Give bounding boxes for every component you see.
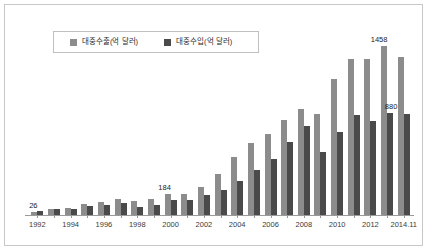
x-tick-slot: 1998: [129, 219, 146, 233]
x-tick-mark: [87, 215, 88, 218]
x-tick-mark: [354, 215, 355, 218]
bar-import: [171, 200, 177, 215]
bar-group: [129, 29, 146, 215]
bar-import: [87, 206, 93, 215]
x-tick-slot: [46, 219, 63, 233]
x-tick-slot: [246, 219, 263, 233]
legend-swatch-export: [70, 39, 77, 46]
bar-import: [354, 115, 360, 215]
bar-group: [395, 29, 412, 215]
bar-group: [312, 29, 329, 215]
x-tick-mark: [137, 215, 138, 218]
x-tick-label: 2010: [329, 221, 346, 229]
bar-import: [271, 159, 277, 215]
x-axis-labels: 1992199419961998200020022004200620082010…: [29, 219, 412, 233]
bar-group: [96, 29, 113, 215]
legend-label-export: 대중수출(억 달러): [82, 38, 138, 46]
x-tick-mark: [287, 215, 288, 218]
bar-import: [387, 113, 393, 215]
legend-entry-export: 대중수출(억 달러): [70, 38, 138, 46]
x-tick-slot: [279, 219, 296, 233]
x-tick-mark: [404, 215, 405, 218]
x-tick-mark: [337, 215, 338, 218]
x-tick-label: 2000: [162, 221, 179, 229]
bar-value-label: 26: [29, 202, 37, 210]
legend-entry-import: 대중수입(억 달러): [164, 38, 232, 46]
x-tick-mark: [171, 215, 172, 218]
bar-import: [221, 190, 227, 215]
x-tick-slot: 1994: [62, 219, 79, 233]
bar-value-label: 1458: [371, 36, 388, 44]
bar-import: [287, 142, 293, 215]
bar-import: [154, 205, 160, 215]
x-tick-mark: [320, 215, 321, 218]
bar-group: [262, 29, 279, 215]
x-tick-slot: 2008: [296, 219, 313, 233]
bar-group: [79, 29, 96, 215]
x-tick-slot: [312, 219, 329, 233]
x-tick-mark: [204, 215, 205, 218]
x-tick-label: 2014.11: [390, 221, 417, 229]
bar-import: [304, 126, 310, 215]
bar-import: [187, 200, 193, 215]
x-tick-slot: 1996: [96, 219, 113, 233]
bar-group: [246, 29, 263, 215]
chart-legend: 대중수출(억 달러) 대중수입(억 달러): [53, 31, 259, 53]
bar-import: [320, 152, 326, 215]
x-tick-mark: [54, 215, 55, 218]
x-tick-label: 2008: [295, 221, 312, 229]
bar-group: 1458880: [379, 29, 396, 215]
bar-import: [254, 170, 260, 215]
x-tick-label: 2012: [362, 221, 379, 229]
x-tick-label: 2004: [229, 221, 246, 229]
x-tick-mark: [370, 215, 371, 218]
x-tick-mark: [304, 215, 305, 218]
x-tick-slot: [345, 219, 362, 233]
bar-group: [329, 29, 346, 215]
bar-group: [179, 29, 196, 215]
x-tick-label: 1996: [96, 221, 113, 229]
x-tick-slot: [112, 219, 129, 233]
bar-import: [237, 181, 243, 215]
x-tick-label: 1994: [62, 221, 79, 229]
bar-group: [62, 29, 79, 215]
x-tick-slot: [179, 219, 196, 233]
chart-screenshot: 261841458880 199219941996199820002002200…: [0, 0, 427, 250]
bar-group: [345, 29, 362, 215]
x-tick-mark: [154, 215, 155, 218]
x-tick-slot: 1992: [29, 219, 46, 233]
bar-group: [212, 29, 229, 215]
bars-container: 261841458880: [29, 29, 412, 215]
x-tick-mark: [121, 215, 122, 218]
bar-group: 184: [162, 29, 179, 215]
bar-import: [337, 132, 343, 215]
image-frame: 261841458880 199219941996199820002002200…: [4, 4, 423, 246]
bar-group: [196, 29, 213, 215]
x-tick-slot: 2002: [196, 219, 213, 233]
x-tick-slot: 2004: [229, 219, 246, 233]
x-tick-slot: [79, 219, 96, 233]
x-tick-label: 1998: [129, 221, 146, 229]
bar-group: [362, 29, 379, 215]
x-tick-mark: [254, 215, 255, 218]
x-tick-label: 1992: [29, 221, 46, 229]
x-tick-mark: [104, 215, 105, 218]
x-axis-line: [25, 215, 414, 216]
bar-import: [370, 121, 376, 215]
x-tick-mark: [271, 215, 272, 218]
x-tick-label: 2002: [196, 221, 213, 229]
bar-import: [404, 114, 410, 215]
x-tick-label: 2006: [262, 221, 279, 229]
bar-group: 26: [29, 29, 46, 215]
x-tick-slot: 2000: [162, 219, 179, 233]
x-tick-slot: 2010: [329, 219, 346, 233]
x-tick-mark: [387, 215, 388, 218]
bar-import: [104, 205, 110, 215]
x-tick-mark: [71, 215, 72, 218]
x-tick-mark: [221, 215, 222, 218]
x-tick-mark: [187, 215, 188, 218]
x-tick-slot: [212, 219, 229, 233]
bar-import: [137, 207, 143, 215]
bar-import: [121, 203, 127, 215]
bar-value-label: 184: [158, 184, 171, 192]
